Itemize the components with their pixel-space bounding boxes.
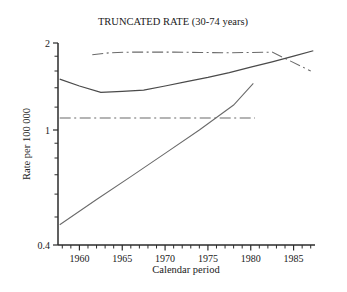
chart-title: TRUNCATED RATE (30-74 years) (98, 16, 249, 28)
x-tick-label: 1970 (155, 253, 175, 264)
x-tick-label: 1980 (241, 253, 261, 264)
y-tick-label: 0.4 (38, 240, 51, 251)
truncated-rate-line-chart: TRUNCATED RATE (30-74 years) 210.4 19601… (0, 0, 347, 292)
y-axis-tick-labels: 210.4 (38, 38, 51, 251)
y-axis-label: Rate per 100 000 (21, 108, 32, 180)
x-tick-label: 1965 (112, 253, 132, 264)
x-tick-label: 1985 (284, 253, 304, 264)
series-solid-curve (60, 51, 314, 93)
y-tick-label: 1 (45, 125, 50, 136)
x-tick-label: 1960 (69, 253, 89, 264)
y-tick-label: 2 (45, 38, 50, 49)
x-axis-label: Calendar period (152, 264, 220, 275)
x-tick-label: 1975 (198, 253, 218, 264)
x-axis-major-ticks (79, 245, 293, 251)
series-rising-diagonal (60, 83, 254, 224)
series-upper-dash-dot (92, 52, 310, 71)
data-series-layer (60, 51, 314, 225)
x-axis-tick-labels: 196019651970197519801985 (69, 253, 303, 264)
chart-figure: TRUNCATED RATE (30-74 years) 210.4 19601… (0, 0, 347, 292)
